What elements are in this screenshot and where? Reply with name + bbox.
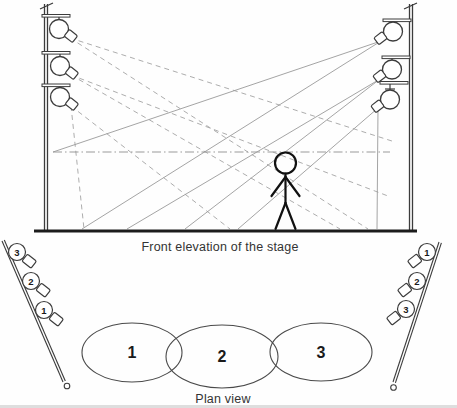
front-elevation: Front elevation of the stage — [34, 3, 417, 254]
spotlight-icon — [374, 19, 411, 45]
left-boom-lights: 3 2 1 — [9, 244, 64, 327]
beam-line — [71, 75, 388, 196]
diagram-canvas: Front elevation of the stage 3 2 — [0, 0, 457, 408]
beam-line — [71, 106, 230, 229]
right-light-beams — [53, 41, 381, 229]
boom-light-number: 1 — [424, 247, 430, 258]
area-number-3: 3 — [317, 344, 326, 361]
beam-line — [127, 79, 380, 229]
actor-figure — [272, 153, 300, 230]
stage-floor — [34, 230, 417, 233]
beam-line — [70, 38, 395, 142]
stage-lighting-diagram: Front elevation of the stage 3 2 — [0, 0, 457, 408]
actor-head — [275, 153, 296, 174]
spotlight-icon — [373, 56, 410, 83]
beam-line — [70, 38, 368, 229]
boom-light-icon — [23, 273, 51, 298]
boom-light-icon — [397, 273, 425, 298]
spotlight-icon — [371, 82, 408, 113]
boom-light-icon — [386, 301, 414, 326]
left-lighting-pole — [40, 3, 53, 231]
right-spotlights — [371, 19, 411, 113]
elevation-caption: Front elevation of the stage — [141, 240, 298, 254]
lighting-areas — [82, 323, 372, 388]
right-lighting-pole — [404, 3, 417, 231]
beam-line — [53, 41, 381, 152]
boom-light-number: 1 — [41, 305, 47, 316]
left-light-beams — [70, 38, 395, 229]
area-number-2: 2 — [218, 348, 227, 365]
boom-light-number: 2 — [414, 276, 419, 287]
boom-light-number: 3 — [403, 304, 408, 315]
plan-view: 3 2 1 1 2 3 — [2, 240, 441, 406]
pole-cap — [40, 3, 53, 9]
beam-line — [82, 41, 381, 229]
caster-icon — [391, 385, 397, 391]
boom-light-number: 2 — [28, 276, 33, 287]
pole-cap — [404, 3, 417, 9]
area-number-1: 1 — [128, 344, 137, 361]
plan-caption: Plan view — [195, 392, 251, 406]
beam-line — [71, 106, 84, 229]
boom-light-number: 3 — [14, 247, 19, 258]
beam-line — [377, 108, 378, 229]
caster-icon — [64, 383, 70, 389]
